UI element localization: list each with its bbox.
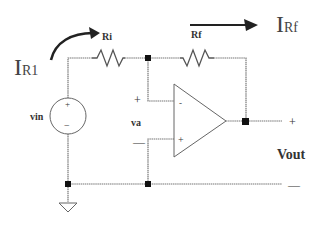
resistor-rf (180, 50, 214, 66)
current-arrow-in (51, 27, 100, 60)
junction-node-top (145, 55, 151, 61)
label-ri: Ri (102, 31, 112, 42)
junction-node-output (242, 118, 249, 125)
junction-node-ground-mid (145, 181, 151, 187)
source-minus-sign: − (64, 120, 70, 131)
circuit-diagram: IR1 IRf Ri Rf vin + − va + — - + + Vout … (0, 0, 332, 226)
source-plus-sign: + (65, 99, 70, 109)
opamp-inverting-sign: - (179, 98, 182, 108)
va-plus-sign: + (134, 93, 141, 107)
wire-noninverting-to-ground (148, 139, 174, 184)
label-vout: Vout (277, 147, 306, 162)
wire-node-to-inverting (148, 58, 174, 101)
va-minus-sign: — (132, 135, 146, 149)
label-current-in: IR1 (14, 54, 38, 80)
output-minus-sign: — (287, 178, 301, 192)
wire-source-to-ri (68, 58, 92, 98)
label-rf: Rf (191, 29, 202, 40)
opamp-noninverting-sign: + (178, 134, 184, 145)
wire-rf-to-output (214, 58, 246, 121)
resistor-ri (92, 50, 125, 66)
ground-icon (59, 203, 77, 212)
output-plus-sign: + (289, 115, 296, 129)
junction-node-ground-left (65, 181, 71, 187)
label-current-feedback: IRf (276, 11, 298, 37)
opamp (174, 84, 226, 157)
label-va: va (131, 117, 141, 128)
label-vin: vin (30, 111, 44, 122)
